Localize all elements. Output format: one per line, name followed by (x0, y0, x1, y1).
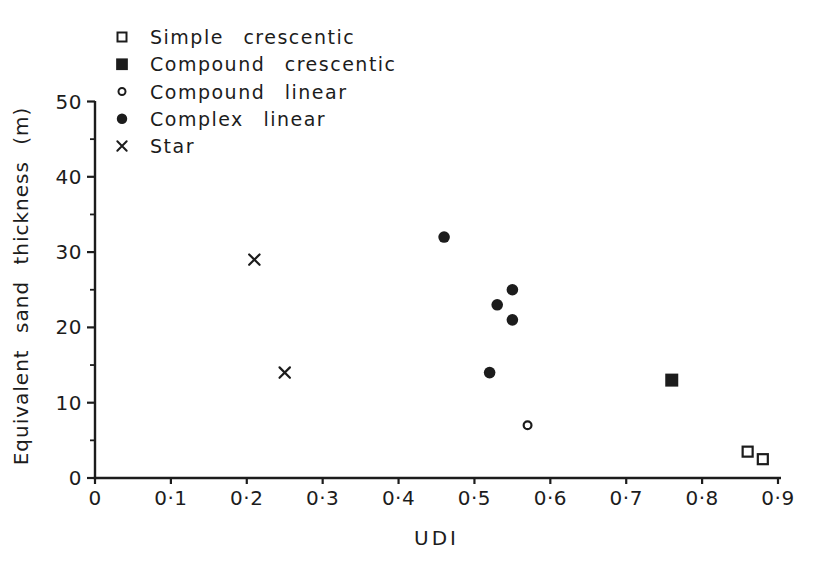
scatter-figure: 0102030405000·10·20·30·40·50·60·70·80·9U… (0, 0, 813, 578)
x-axis-title: UDI (414, 526, 459, 550)
point-star (280, 367, 290, 377)
legend-item: Star (117, 135, 195, 157)
point-complex-linear (438, 231, 450, 243)
y-tick-label: 30 (56, 240, 82, 264)
point-compound-linear (524, 421, 532, 429)
x-tick-label: 0·1 (154, 486, 187, 510)
legend: Simple crescenticCompound crescenticComp… (116, 26, 396, 157)
legend-label: Simple crescentic (150, 26, 355, 48)
legend-marker-filled-circle-icon (117, 114, 127, 124)
legend-marker-x-icon (117, 141, 126, 150)
x-tick-label: 0·5 (458, 486, 491, 510)
legend-marker-filled-square-icon (116, 58, 128, 70)
legend-item: Simple crescentic (118, 26, 356, 48)
x-tick-label: 0·2 (230, 486, 263, 510)
y-axis-title: Equivalent sand thickness (m) (9, 107, 33, 466)
legend-item: Compound linear (118, 81, 347, 103)
x-tick-label: 0·4 (382, 486, 415, 510)
point-complex-linear (507, 314, 519, 326)
legend-label: Star (150, 135, 195, 157)
y-tick-label: 50 (56, 90, 82, 114)
y-tick-label: 0 (69, 466, 82, 490)
legend-label: Complex linear (150, 108, 326, 130)
axes (94, 101, 781, 479)
x-tick-label: 0·8 (685, 486, 718, 510)
series-star (249, 254, 290, 377)
y-tick-label: 10 (56, 391, 82, 415)
y-axis-ticks: 01020304050 (56, 90, 95, 491)
legend-label: Compound crescentic (150, 53, 397, 75)
x-tick-label: 0 (88, 486, 101, 510)
scatter-plot: 0102030405000·10·20·30·40·50·60·70·80·9U… (0, 0, 813, 578)
point-simple-crescentic (758, 454, 768, 464)
point-compound-crescentic (665, 374, 678, 387)
point-complex-linear (507, 284, 519, 296)
legend-item: Complex linear (117, 108, 326, 130)
series-compound-linear (524, 421, 532, 429)
series-complex-linear (438, 231, 518, 378)
y-tick-label: 40 (56, 165, 82, 189)
legend-label: Compound linear (150, 81, 348, 103)
point-simple-crescentic (743, 447, 753, 457)
legend-marker-open-square-icon (118, 33, 127, 42)
x-tick-label: 0·6 (534, 486, 567, 510)
series-compound-crescentic (665, 374, 678, 387)
point-complex-linear (491, 299, 503, 311)
series-simple-crescentic (743, 447, 768, 465)
x-axis-ticks: 00·10·20·30·40·50·60·70·80·9 (88, 478, 794, 510)
x-tick-label: 0·9 (761, 486, 794, 510)
point-star (249, 254, 259, 264)
x-tick-label: 0·3 (306, 486, 339, 510)
legend-marker-open-circle-icon (118, 88, 125, 95)
x-tick-label: 0·7 (610, 486, 643, 510)
y-tick-label: 20 (56, 315, 82, 339)
point-complex-linear (484, 367, 496, 379)
legend-item: Compound crescentic (116, 53, 396, 75)
